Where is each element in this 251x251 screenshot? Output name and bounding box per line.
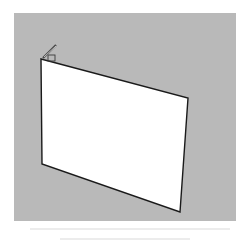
hinge-handle-icon[interactable] — [43, 45, 56, 61]
scene-drawing — [0, 0, 251, 251]
faint-caption-area — [0, 224, 251, 251]
white-panel[interactable] — [41, 59, 188, 212]
